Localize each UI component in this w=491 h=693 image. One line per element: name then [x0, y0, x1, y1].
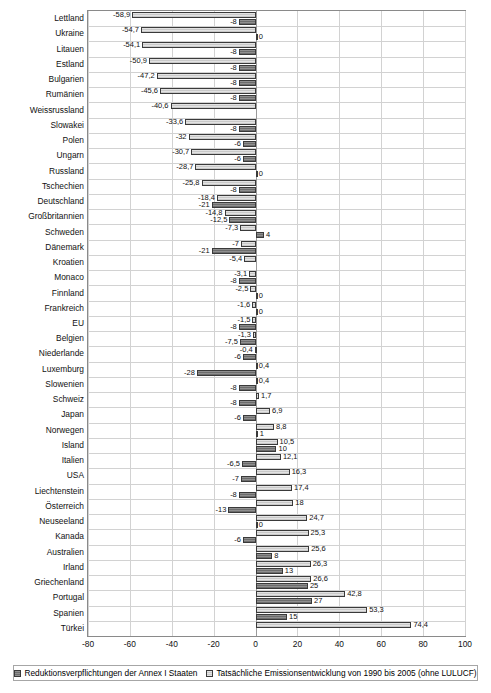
- bar-actual-emissions: [141, 27, 256, 33]
- bar-actual-emissions: [256, 485, 292, 491]
- category-label-australien: Australien: [0, 548, 84, 557]
- legend-label: Tatsächliche Emissionsentwicklung von 19…: [216, 668, 476, 678]
- category-label-ukraine: Ukraine: [0, 29, 84, 38]
- category-label-usa: USA: [0, 471, 84, 480]
- bar-reduction-commitment: [240, 339, 256, 345]
- bar-actual-emissions: [256, 408, 270, 414]
- category-label-kanada: Kanada: [0, 532, 84, 541]
- bar-value-label-commitment: 13: [285, 567, 293, 575]
- bar-actual-emissions: [244, 256, 255, 262]
- bar-value-label-commitment: -8: [230, 64, 237, 72]
- bar-reduction-commitment: [239, 126, 256, 132]
- bar-actual-emissions: [132, 12, 255, 18]
- category-label-norwegen: Norwegen: [0, 426, 84, 435]
- category-label-t-rkei: Türkei: [0, 624, 84, 633]
- bar-value-label-actual: 0,4: [259, 377, 269, 385]
- bar-value-label-commitment: -8: [230, 491, 237, 499]
- bar-value-label-actual: -1,3: [238, 331, 251, 339]
- chart-row: -47,2-8: [88, 72, 465, 87]
- bar-reduction-commitment: [239, 95, 256, 101]
- bar-value-label-actual: -2,5: [235, 285, 248, 293]
- bar-value-label-commitment: 0: [259, 521, 263, 529]
- category-label-neuseeland: Neuseeland: [0, 517, 84, 526]
- bar-value-label-commitment: -7: [232, 475, 239, 483]
- bar-value-label-commitment: -21: [199, 247, 210, 255]
- bar-reduction-commitment: [256, 171, 258, 177]
- chart-row: 8,81: [88, 423, 465, 438]
- bar-value-label-commitment: -8: [230, 399, 237, 407]
- bar-value-label-commitment: -8: [230, 18, 237, 26]
- bar-value-label-actual: -54,7: [122, 26, 139, 34]
- x-tick-label: 40: [319, 640, 359, 649]
- bar-value-label-commitment: 1: [260, 430, 264, 438]
- bar-value-label-commitment: -6: [234, 140, 241, 148]
- bar-value-label-actual: -58,9: [113, 11, 130, 19]
- category-label--sterreich: Österreich: [0, 502, 84, 511]
- category-label-niederlande: Niederlande: [0, 349, 84, 358]
- bar-value-label-commitment: -8: [230, 186, 237, 194]
- category-label-portugal: Portugal: [0, 593, 84, 602]
- bar-value-label-actual: 24,7: [309, 514, 324, 522]
- bar-actual-emissions: [241, 241, 256, 247]
- bar-reduction-commitment: [256, 34, 258, 40]
- bar-value-label-commitment: -13: [215, 506, 226, 514]
- bar-actual-emissions: [256, 500, 294, 506]
- chart-row: 1,7-8: [88, 392, 465, 407]
- chart-row: -7,34: [88, 224, 465, 239]
- bar-actual-emissions: [256, 469, 290, 475]
- chart-row: 16,3-7: [88, 468, 465, 483]
- x-tick-label: 20: [277, 640, 317, 649]
- category-label-litauen: Litauen: [0, 45, 84, 54]
- chart-row: -40,6: [88, 102, 465, 117]
- chart-row: -54,1-8: [88, 41, 465, 56]
- legend-item[interactable]: Tatsächliche Emissionsentwicklung von 19…: [206, 668, 476, 678]
- bar-value-label-actual: 25,6: [311, 545, 326, 553]
- bar-actual-emissions: [255, 347, 257, 353]
- bar-reduction-commitment: [256, 293, 258, 299]
- bar-value-label-actual: -54,1: [123, 41, 140, 49]
- bar-value-label-actual: -32: [176, 133, 187, 141]
- bar-value-label-commitment: -8: [230, 79, 237, 87]
- bar-reduction-commitment: [243, 415, 256, 421]
- legend-item[interactable]: Reduktionsverpflichtungen der Annex I St…: [14, 668, 197, 678]
- bar-value-label-commitment: 4: [266, 231, 270, 239]
- bar-value-label-commitment: 25: [310, 582, 318, 590]
- bar-value-label-commitment: 8: [274, 552, 278, 560]
- chart-row: 53,315: [88, 606, 465, 621]
- bar-reduction-commitment: [256, 553, 273, 559]
- category-label-d-nemark: Dänemark: [0, 243, 84, 252]
- chart-row: 10,510: [88, 438, 465, 453]
- bar-value-label-commitment: 0: [259, 170, 263, 178]
- category-label-griechenland: Griechenland: [0, 578, 84, 587]
- x-tick-label: -20: [194, 640, 234, 649]
- bar-value-label-actual: -50,9: [130, 57, 147, 65]
- bar-actual-emissions: [256, 576, 312, 582]
- bar-value-label-actual: -7,3: [225, 224, 238, 232]
- bar-reduction-commitment: [239, 400, 256, 406]
- chart-row: -2,50: [88, 285, 465, 300]
- chart-row: 6,9-6: [88, 407, 465, 422]
- bar-value-label-actual: -28,7: [176, 163, 193, 171]
- bar-value-label-actual: 16,3: [292, 468, 307, 476]
- category-label-tschechien: Tschechien: [0, 182, 84, 191]
- bar-reduction-commitment: [212, 202, 256, 208]
- category-label-monaco: Monaco: [0, 273, 84, 282]
- chart-container: -58,9-8-54,70-54,1-8-50,9-8-47,2-8-45,6-…: [0, 0, 491, 693]
- bar-reduction-commitment: [239, 385, 256, 391]
- legend-swatch-commit: [14, 670, 21, 677]
- legend-label: Reduktionsverpflichtungen der Annex I St…: [24, 668, 197, 678]
- bar-reduction-commitment: [256, 568, 283, 574]
- bar-actual-emissions: [225, 210, 256, 216]
- category-label-luxemburg: Luxemburg: [0, 365, 84, 374]
- bar-reduction-commitment: [256, 431, 258, 437]
- x-tick-label: 80: [403, 640, 443, 649]
- bar-actual-emissions: [240, 225, 255, 231]
- chart-row: -54,70: [88, 26, 465, 41]
- bar-reduction-commitment: [256, 446, 277, 452]
- category-label-irland: Irland: [0, 563, 84, 572]
- chart-row: 18-13: [88, 499, 465, 514]
- category-label-lettland: Lettland: [0, 14, 84, 23]
- category-label-eu: EU: [0, 319, 84, 328]
- bar-value-label-commitment: -6: [234, 155, 241, 163]
- chart-row: -33,6-8: [88, 118, 465, 133]
